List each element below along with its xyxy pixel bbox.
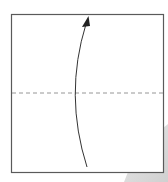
origami-fold-diagram [0,0,168,182]
paper-square [12,15,164,173]
